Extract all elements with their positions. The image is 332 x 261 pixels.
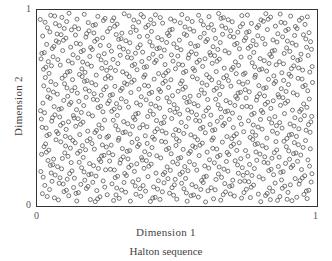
data-point <box>220 24 224 28</box>
data-point <box>271 38 275 42</box>
data-point <box>109 49 113 53</box>
data-point <box>56 165 60 169</box>
data-point <box>250 130 254 134</box>
data-point <box>171 94 175 98</box>
data-point <box>81 155 85 159</box>
data-point <box>71 138 75 142</box>
data-point <box>309 40 313 44</box>
data-point <box>152 185 156 189</box>
data-point <box>256 192 260 196</box>
data-point <box>131 124 135 128</box>
data-point <box>147 56 151 60</box>
data-point <box>77 72 81 76</box>
data-point <box>257 175 261 179</box>
data-point <box>271 189 275 193</box>
data-point <box>295 195 299 199</box>
data-point <box>98 43 102 47</box>
data-point <box>176 162 180 166</box>
data-point <box>204 200 208 204</box>
data-point <box>112 168 116 172</box>
data-point <box>157 72 161 76</box>
data-point <box>305 15 309 19</box>
data-point <box>122 120 126 124</box>
data-point <box>133 184 137 188</box>
data-point <box>280 126 284 130</box>
data-point <box>291 91 295 95</box>
data-point <box>132 169 136 173</box>
data-point <box>127 75 131 79</box>
data-point <box>248 196 252 200</box>
data-point <box>204 109 208 113</box>
data-point <box>57 24 61 28</box>
data-point <box>124 190 128 194</box>
data-point <box>61 49 65 53</box>
data-point <box>75 108 79 112</box>
data-point <box>258 57 262 61</box>
data-point <box>235 148 239 152</box>
data-point <box>44 126 48 130</box>
data-point <box>115 113 119 117</box>
data-point <box>127 14 131 18</box>
data-point <box>270 129 274 133</box>
data-point <box>236 30 240 34</box>
data-point <box>92 147 96 151</box>
data-point <box>252 50 256 54</box>
data-point <box>39 170 43 174</box>
data-point <box>117 196 121 200</box>
data-point <box>287 149 291 153</box>
data-point <box>80 166 84 170</box>
data-point <box>131 25 135 29</box>
data-point <box>169 78 173 82</box>
data-point <box>172 193 176 197</box>
data-point <box>307 31 311 35</box>
x-tick-left: 0 <box>34 211 39 221</box>
data-point <box>239 157 243 161</box>
data-point <box>153 13 157 17</box>
data-point <box>94 83 98 87</box>
data-point <box>260 144 264 148</box>
data-point <box>218 92 222 96</box>
data-point <box>142 65 146 69</box>
data-point <box>105 30 109 34</box>
data-point <box>229 29 233 33</box>
data-point <box>124 100 128 104</box>
data-point <box>60 15 64 19</box>
data-point <box>232 194 236 198</box>
data-point <box>134 28 138 32</box>
data-point <box>65 70 69 74</box>
data-point <box>91 23 95 27</box>
data-point <box>222 76 226 80</box>
data-point <box>270 49 274 53</box>
data-point <box>158 106 162 110</box>
data-point <box>187 116 191 120</box>
data-point <box>176 54 180 58</box>
data-point <box>127 105 131 109</box>
data-point <box>207 166 211 170</box>
data-point <box>100 126 104 130</box>
data-point <box>223 49 227 53</box>
data-point <box>151 196 155 200</box>
data-point <box>133 51 137 55</box>
data-point <box>121 47 125 51</box>
data-point <box>288 49 292 53</box>
data-point <box>105 193 109 197</box>
data-point <box>208 51 212 55</box>
data-point <box>145 34 149 38</box>
data-point <box>305 197 309 201</box>
data-point <box>137 87 141 91</box>
data-point <box>177 62 181 66</box>
data-point <box>186 108 190 112</box>
data-point <box>77 27 81 31</box>
data-point <box>281 35 285 39</box>
data-point <box>87 89 91 93</box>
data-point <box>101 36 105 40</box>
data-point <box>120 188 124 192</box>
data-point <box>216 103 220 107</box>
data-point <box>293 177 297 181</box>
data-point <box>69 161 73 165</box>
data-point <box>240 14 244 18</box>
data-point <box>292 124 296 128</box>
data-point <box>114 33 118 37</box>
data-point <box>309 47 313 51</box>
data-point <box>170 186 174 190</box>
